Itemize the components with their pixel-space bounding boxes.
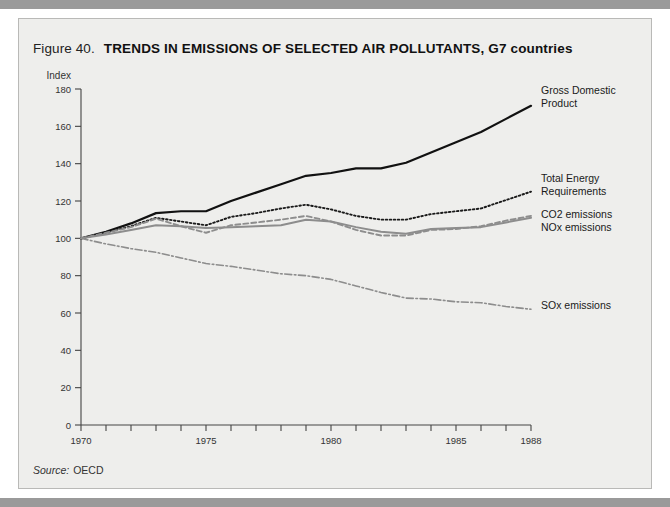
x-axis-tick-label: 1975 bbox=[195, 435, 216, 446]
y-axis-tick-label: 0 bbox=[66, 420, 71, 431]
page-band-bottom bbox=[0, 498, 670, 507]
figure-root: Figure 40.TRENDS IN EMISSIONS OF SELECTE… bbox=[0, 0, 670, 507]
series-label-1-line2: Requirements bbox=[541, 185, 606, 197]
y-axis-tick-label: 20 bbox=[60, 382, 71, 393]
figure-panel: Figure 40.TRENDS IN EMISSIONS OF SELECTE… bbox=[18, 18, 652, 489]
source-note: Source:OECD bbox=[33, 464, 104, 476]
x-axis-tick-label: 1985 bbox=[445, 435, 466, 446]
series-line-1 bbox=[81, 192, 531, 239]
y-axis-tick-label: 60 bbox=[60, 308, 71, 319]
series-label-0: Gross Domestic bbox=[541, 84, 616, 96]
series-label-3: NOx emissions bbox=[541, 221, 612, 233]
line-chart: 020406080100120140160180Index19701975198… bbox=[19, 19, 653, 490]
x-axis-tick-label: 1980 bbox=[320, 435, 341, 446]
series-label-1: Total Energy bbox=[541, 172, 600, 184]
source-value: OECD bbox=[73, 464, 103, 476]
y-axis-tick-label: 160 bbox=[55, 121, 71, 132]
series-line-4 bbox=[81, 238, 531, 309]
y-axis-title: Index bbox=[47, 70, 71, 81]
y-axis-tick-label: 40 bbox=[60, 345, 71, 356]
y-axis-tick-label: 80 bbox=[60, 270, 71, 281]
source-label: Source: bbox=[33, 464, 69, 476]
x-axis-tick-label: 1988 bbox=[520, 435, 541, 446]
series-label-2: CO2 emissions bbox=[541, 208, 612, 220]
page-band-top bbox=[0, 0, 670, 9]
y-axis-tick-label: 100 bbox=[55, 233, 71, 244]
series-label-4: SOx emissions bbox=[541, 299, 611, 311]
y-axis-tick-label: 140 bbox=[55, 158, 71, 169]
series-line-0 bbox=[81, 106, 531, 239]
y-axis-tick-label: 120 bbox=[55, 196, 71, 207]
x-axis-tick-label: 1970 bbox=[70, 435, 91, 446]
y-axis-tick-label: 180 bbox=[55, 84, 71, 95]
series-label-0-line2: Product bbox=[541, 97, 577, 109]
